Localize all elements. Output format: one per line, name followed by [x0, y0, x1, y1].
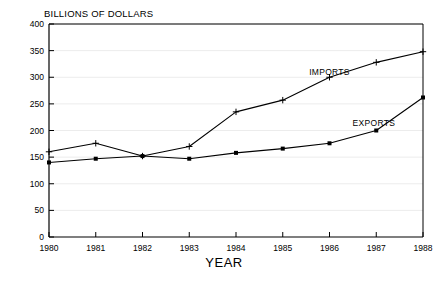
series-label-exports: EXPORTS [353, 118, 396, 128]
marker-plus-imports [373, 59, 379, 65]
marker-square-exports [234, 151, 238, 155]
plot-area [0, 0, 448, 281]
x-axis-tick-label: 1984 [216, 243, 256, 253]
y-axis-tick-label: 0 [18, 232, 44, 242]
y-axis-tick-label: 250 [18, 99, 44, 109]
y-axis-tick-label: 350 [18, 46, 44, 56]
series-label-imports: IMPORTS [309, 67, 350, 77]
y-axis-tick-label: 150 [18, 152, 44, 162]
y-axis-tick-label: 400 [18, 19, 44, 29]
marker-square-exports [328, 141, 332, 145]
y-axis-tick-label: 100 [18, 179, 44, 189]
x-axis-tick-label: 1980 [29, 243, 69, 253]
marker-square-exports [421, 95, 425, 99]
x-axis-tick-label: 1987 [356, 243, 396, 253]
marker-plus-imports [420, 48, 426, 54]
marker-plus-imports [93, 140, 99, 146]
y-axis-tick-label: 50 [18, 205, 44, 215]
x-axis-tick-label: 1983 [169, 243, 209, 253]
marker-square-exports [141, 154, 145, 158]
y-axis-tick-label: 200 [18, 126, 44, 136]
x-axis-tick-label: 1986 [310, 243, 350, 253]
marker-square-exports [374, 129, 378, 133]
chart-figure: BILLIONS OF DOLLARS 05010015020025030035… [0, 0, 448, 281]
x-axis-tick-label: 1985 [263, 243, 303, 253]
x-axis-tick-label: 1988 [403, 243, 443, 253]
marker-square-exports [281, 147, 285, 151]
marker-square-exports [94, 157, 98, 161]
x-axis-tick-label: 1982 [123, 243, 163, 253]
x-axis-title: YEAR [0, 255, 448, 270]
marker-square-exports [47, 160, 51, 164]
y-axis-tick-label: 300 [18, 72, 44, 82]
marker-plus-imports [280, 97, 286, 103]
marker-plus-imports [46, 149, 52, 155]
marker-square-exports [187, 157, 191, 161]
x-axis-tick-label: 1981 [76, 243, 116, 253]
